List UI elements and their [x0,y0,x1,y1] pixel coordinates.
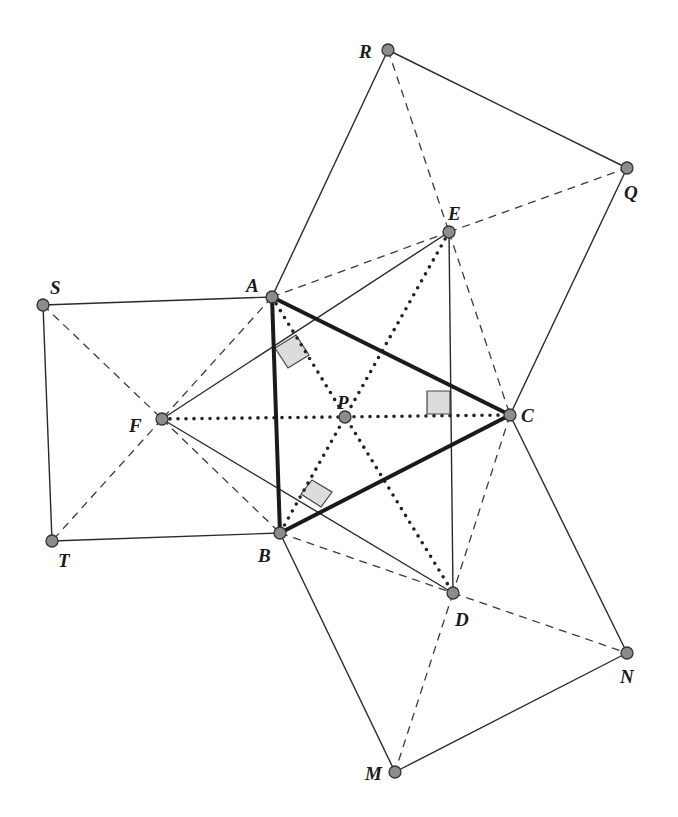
label-c: C [521,405,534,426]
label-n: N [619,666,635,687]
point-r [382,44,394,56]
segment-tb [52,533,280,541]
segment-st [43,305,52,541]
point-labels: ABCDEFPQRSTMN [50,41,638,784]
segment-bm [280,533,395,772]
segment-fe [162,232,449,419]
label-a: A [245,275,259,296]
label-s: S [50,277,61,298]
segment-bc [280,415,510,533]
point-e [443,226,455,238]
points [37,44,633,778]
point-d [447,587,459,599]
label-r: R [358,41,372,62]
point-b [274,527,286,539]
segment-nc [510,415,627,653]
segment-ft [52,419,162,541]
dotted-segments [162,232,510,593]
segment-fb [162,419,280,533]
point-t [46,535,58,547]
point-f [156,413,168,425]
point-c [504,409,516,421]
segment-dm [395,593,453,772]
segment-ar [272,50,388,297]
segment-qc [510,168,627,415]
segment-ab [272,297,280,533]
segment-fd [162,419,453,593]
dashed-segments [43,50,627,772]
label-m: M [364,763,383,784]
segment-mn [395,653,627,772]
point-q [621,162,633,174]
point-s [37,299,49,311]
geometry-diagram: ABCDEFPQRSTMN [0,0,678,817]
segment-rq [388,50,627,168]
right-angle-markers [275,335,450,507]
segment-sf [43,305,162,419]
segment-re [388,50,449,232]
label-t: T [58,550,71,571]
right-angle-marker-icon [301,480,332,507]
solid-segments [43,50,627,772]
segment-as [43,297,272,305]
label-f: F [128,415,142,436]
segment-fc [162,415,510,419]
label-e: E [447,203,461,224]
segment-dn [453,593,627,653]
point-n [621,647,633,659]
point-a [266,291,278,303]
label-b: B [257,545,271,566]
label-q: Q [624,182,638,203]
segment-eq [449,168,627,232]
right-angle-marker-icon [427,391,450,414]
label-p: P [336,392,349,413]
label-d: D [454,609,469,630]
point-m [389,766,401,778]
